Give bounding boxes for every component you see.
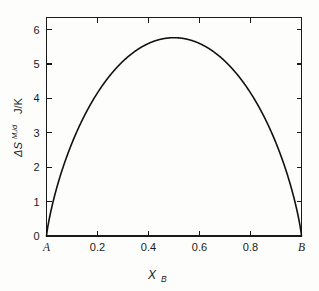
x-tick-label: 0.8	[243, 241, 258, 253]
x-axis-title-subscript: B	[161, 274, 167, 284]
chart-canvas: 0123456 A0.20.40.60.8B X B ΔS M,id J/K	[0, 0, 319, 291]
y-tick-label: 0	[33, 230, 39, 242]
y-tick-label: 3	[33, 127, 39, 139]
y-tick-label: 4	[33, 92, 39, 104]
x-tick-label: 0.2	[90, 241, 105, 253]
x-tick-label: 0.6	[192, 241, 207, 253]
y-axis-title-superscript: M,id	[10, 124, 19, 139]
x-tick-label: A	[42, 241, 51, 253]
y-tick-label: 2	[33, 161, 39, 173]
entropy-of-mixing-figure: 0123456 A0.20.40.60.8B X B ΔS M,id J/K	[0, 0, 319, 291]
x-axis-title-symbol: X	[147, 268, 157, 282]
y-axis-title-unit: J/K	[12, 97, 24, 114]
y-tick-label: 1	[33, 196, 39, 208]
y-tick-label: 6	[33, 24, 39, 36]
y-tick-label: 5	[33, 58, 39, 70]
x-tick-label: B	[298, 241, 305, 253]
x-tick-label: 0.4	[141, 241, 156, 253]
y-axis-title-delta-s: ΔS	[12, 142, 24, 158]
